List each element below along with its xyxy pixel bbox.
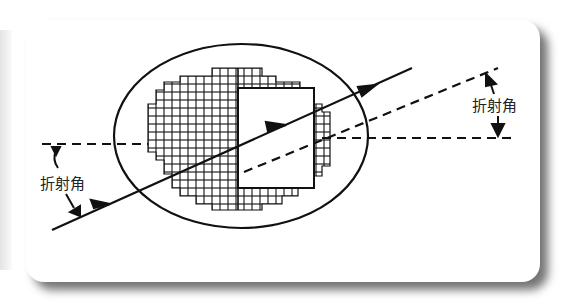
arrow-head-icon [91, 200, 110, 208]
white-block [238, 88, 314, 188]
refraction-diagram: 折射角 折射角 [0, 0, 568, 304]
refracted-angle-label: 折射角 [472, 97, 517, 115]
arrow-head-icon [358, 85, 376, 96]
incident-angle-label: 折射角 [40, 175, 85, 193]
